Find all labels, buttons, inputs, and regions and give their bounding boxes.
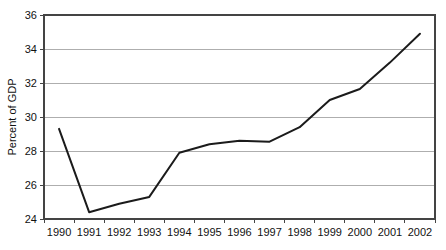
y-axis-title: Percent of GDP <box>6 78 18 155</box>
x-tick-label: 1993 <box>137 226 161 238</box>
y-tick-label: 34 <box>25 43 37 55</box>
x-tick-label: 1994 <box>167 226 191 238</box>
x-tick-label: 1996 <box>227 226 251 238</box>
x-tick-label: 1990 <box>47 226 71 238</box>
x-tick-label: 1992 <box>107 226 131 238</box>
x-tick-label: 2000 <box>348 226 372 238</box>
x-tick-label: 2002 <box>408 226 432 238</box>
x-tick-label: 1998 <box>287 226 311 238</box>
chart-background <box>0 0 446 250</box>
x-tick-label: 1999 <box>317 226 341 238</box>
chart-container: 24262830323436 1990199119921993199419951… <box>0 0 446 250</box>
x-tick-label: 1995 <box>197 226 221 238</box>
y-tick-label: 26 <box>25 179 37 191</box>
y-tick-label: 36 <box>25 9 37 21</box>
y-tick-label: 30 <box>25 111 37 123</box>
y-tick-label: 24 <box>25 213 37 225</box>
x-tick-label: 1991 <box>77 226 101 238</box>
y-tick-label: 32 <box>25 77 37 89</box>
y-tick-label: 28 <box>25 145 37 157</box>
x-tick-label: 2001 <box>378 226 402 238</box>
x-tick-label: 1997 <box>257 226 281 238</box>
line-chart: 24262830323436 1990199119921993199419951… <box>0 0 446 250</box>
